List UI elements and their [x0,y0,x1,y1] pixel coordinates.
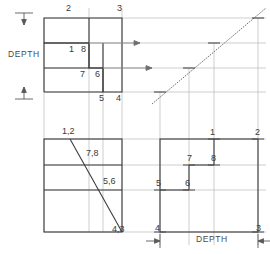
depth-arrowhead-up [22,87,27,93]
top-view-label-2: 2 [66,4,71,13]
top-view-label-5: 5 [99,94,104,103]
top-view-label-4: 4 [116,94,121,103]
technical-drawing-canvas: DEPTH DEPTH 2 3 1 8 7 6 5 4 1,2 7,8 5,6 … [0,0,270,254]
drawing-vector-layer [0,0,270,254]
miter-line-45deg [152,8,266,104]
side-view-label-5: 5 [156,179,161,188]
front-view-label-7-8: 7,8 [86,149,99,158]
arrowhead-1-8 [134,41,140,46]
top-view-label-8: 8 [81,45,86,54]
side-view-label-4: 4 [155,224,160,233]
side-view-label-2: 2 [255,128,260,137]
side-view-label-7: 7 [187,154,192,163]
front-view-label-1-2: 1,2 [62,127,75,136]
top-view-label-3: 3 [117,4,122,13]
arrowhead-7-6 [146,66,152,71]
side-view-label-3: 3 [256,224,261,233]
depth-arrowhead-left [258,239,264,244]
top-view-label-7: 7 [80,70,85,79]
miter-tick-marks [154,18,264,92]
depth-arrowhead-down [22,20,27,26]
depth-label-bottom: DEPTH [196,235,228,244]
top-view-projector-arrows [89,41,152,71]
side-view-label-6: 6 [185,179,190,188]
side-view-point-marks [154,139,264,232]
top-view-object-profile [44,18,122,92]
side-view-outline [160,139,258,232]
side-view-label-8: 8 [211,154,216,163]
miter-line-group [152,8,266,104]
side-view-label-1: 1 [210,128,215,137]
top-view-label-1: 1 [69,45,74,54]
front-view-label-4-3: 4,3 [112,225,125,234]
front-view-label-5-6: 5,6 [103,177,116,186]
depth-label-left: DEPTH [8,50,40,59]
top-view-outline [44,18,122,92]
side-view-object-profile [160,139,258,232]
depth-arrowhead-right [155,239,161,244]
top-view-label-6: 6 [95,70,100,79]
